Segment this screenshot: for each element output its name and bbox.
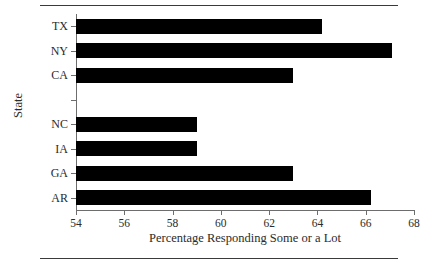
- y-axis-tick-label: NC: [51, 117, 68, 132]
- x-axis-tick-label: 64: [312, 217, 324, 229]
- x-axis-tick-label: 58: [167, 217, 179, 229]
- bar: [76, 166, 293, 181]
- x-axis-tick: [173, 210, 174, 215]
- y-axis-tick: [71, 173, 76, 174]
- x-axis-tick: [366, 210, 367, 215]
- bar: [76, 117, 197, 132]
- y-axis-tick: [71, 51, 76, 52]
- x-axis-spine: [76, 210, 414, 211]
- x-axis-tick: [76, 210, 77, 215]
- y-axis-tick-label: AR: [51, 190, 68, 205]
- y-axis-tick-label: TX: [52, 19, 68, 34]
- top-rule: [40, 5, 398, 6]
- y-axis-tick-label: IA: [55, 141, 68, 156]
- y-axis-tick: [71, 149, 76, 150]
- x-axis-tick: [317, 210, 318, 215]
- x-axis-tick-label: 56: [119, 217, 131, 229]
- bar-chart-figure: State TXNYCANCIAGAAR 5456586062646668 Pe…: [0, 0, 438, 269]
- x-axis-tick: [414, 210, 415, 215]
- x-axis-tick-label: 54: [70, 217, 82, 229]
- y-axis-tick-label: NY: [51, 43, 68, 58]
- x-axis-tick: [269, 210, 270, 215]
- x-axis-tick-label: 62: [263, 217, 275, 229]
- bar: [76, 141, 197, 156]
- x-axis-tick-label: 60: [215, 217, 227, 229]
- y-axis-tick-label: CA: [51, 68, 68, 83]
- bar: [76, 43, 392, 58]
- y-axis-tick-labels: TXNYCANCIAGAAR: [0, 14, 76, 210]
- y-axis-tick: [71, 100, 76, 101]
- y-axis-tick-label: GA: [51, 166, 68, 181]
- x-axis-tick-label: 68: [408, 217, 420, 229]
- bar: [76, 68, 293, 83]
- plot-area: 5456586062646668: [76, 14, 414, 210]
- y-axis-tick: [71, 124, 76, 125]
- bar: [76, 19, 322, 34]
- bar: [76, 190, 371, 205]
- bottom-rule: [40, 258, 398, 259]
- x-axis-title: Percentage Responding Some or a Lot: [76, 231, 414, 246]
- x-axis-tick-label: 66: [360, 217, 372, 229]
- x-axis-tick: [221, 210, 222, 215]
- y-axis-tick: [71, 75, 76, 76]
- x-axis-tick: [124, 210, 125, 215]
- y-axis-tick: [71, 198, 76, 199]
- y-axis-tick: [71, 26, 76, 27]
